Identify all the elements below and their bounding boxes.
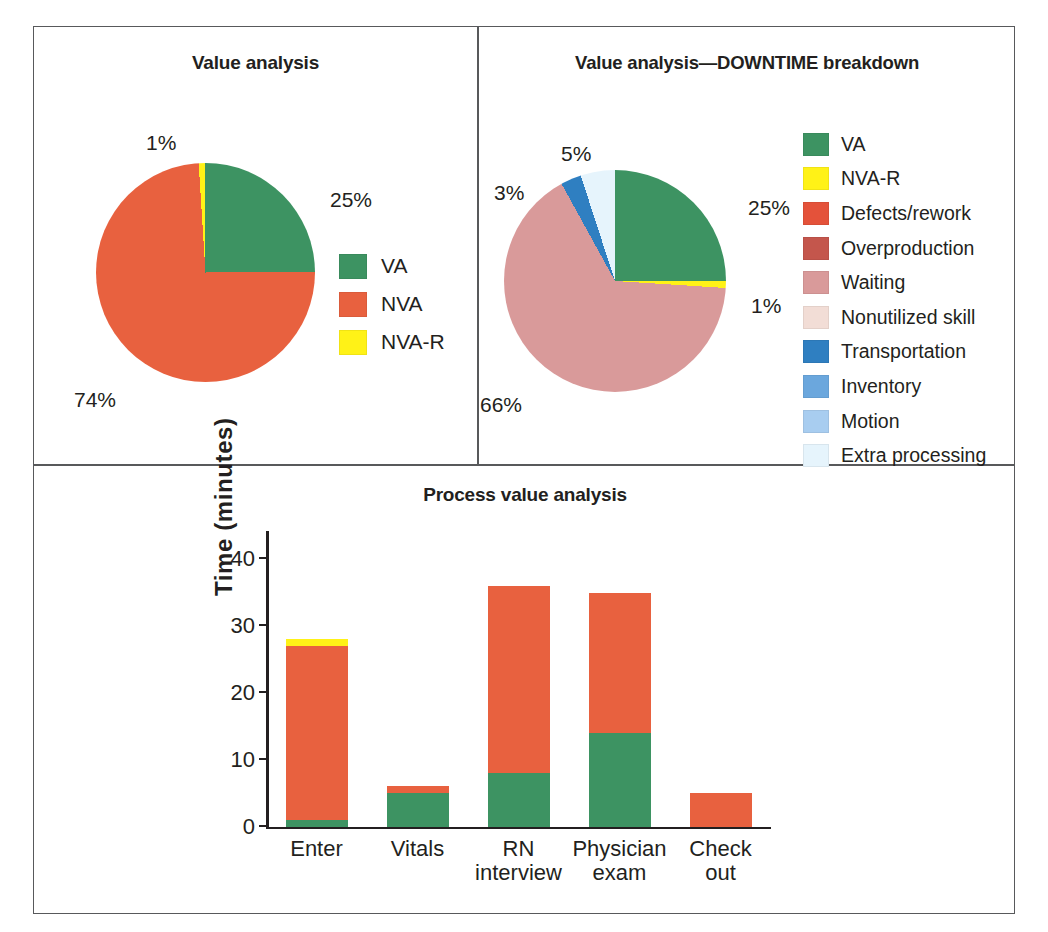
legend-swatch-transportation	[803, 340, 829, 363]
legend-label-motion: Motion	[841, 410, 900, 433]
legend-swatch-nva-r	[339, 330, 367, 355]
y-tick-mark	[259, 691, 266, 693]
y-tick-mark	[259, 624, 266, 626]
legend-label-transportation: Transportation	[841, 340, 966, 363]
bar-segment-nva	[286, 646, 348, 820]
legend-swatch-overproduction	[803, 237, 829, 260]
bar-segment-nva	[589, 593, 651, 733]
legend-swatch-inventory	[803, 375, 829, 398]
pie-slice-label-va: 25%	[748, 196, 790, 220]
bar-chart-plot-area: 010203040EnterVitalsRNinterviewPhysician…	[266, 539, 771, 829]
pie-slice-label-extra-processing: 5%	[561, 142, 591, 166]
bar-segment-nva-r	[286, 639, 348, 646]
panel-downtime-breakdown: Value analysis—DOWNTIME breakdown 3% 5% …	[478, 27, 1016, 464]
legend-swatch-waiting	[803, 271, 829, 294]
bar-segment-va	[286, 820, 348, 827]
y-tick-mark	[259, 758, 266, 760]
legend-label-va: VA	[841, 133, 866, 156]
legend-label-nva: NVA	[381, 292, 423, 316]
pie-slice-label-nva-r: 1%	[146, 131, 176, 155]
process-value-analysis-title: Process value analysis	[34, 484, 1016, 506]
legend-swatch-motion	[803, 410, 829, 433]
legend-label-inventory: Inventory	[841, 375, 921, 398]
bar-segment-nva	[387, 786, 449, 793]
value-analysis-legend: VA NVA NVA-R	[339, 247, 445, 361]
bar-segment-nva	[488, 586, 550, 773]
legend-swatch-nva	[339, 292, 367, 317]
downtime-legend: VANVA-RDefects/reworkOverproductionWaiti…	[803, 127, 986, 473]
legend-swatch-extra-processing	[803, 444, 829, 467]
legend-swatch-va	[339, 254, 367, 279]
y-tick-label: 0	[243, 814, 255, 840]
legend-item-va: VA	[803, 127, 986, 162]
y-tick-label: 10	[231, 747, 255, 773]
legend-label-nonutilized-skill: Nonutilized skill	[841, 306, 975, 329]
y-axis-line	[266, 531, 269, 829]
legend-item-defects-rework: Defects/rework	[803, 196, 986, 231]
legend-item-nva: NVA	[339, 285, 445, 323]
x-tick-label-rn-interview: RNinterview	[468, 837, 569, 885]
bar-stack-vitals[interactable]	[387, 786, 449, 826]
x-tick-label-physician-exam: Physicianexam	[569, 837, 670, 885]
x-axis-line	[266, 827, 771, 830]
legend-label-waiting: Waiting	[841, 271, 905, 294]
legend-label-extra-processing: Extra processing	[841, 444, 986, 467]
panel-value-analysis: Value analysis 1% 25% 74% VA NVA NVA-R	[34, 27, 477, 464]
bar-stack-enter[interactable]	[286, 639, 348, 826]
legend-item-waiting: Waiting	[803, 265, 986, 300]
pie-slice-label-transportation: 3%	[494, 181, 524, 205]
bar-segment-nva	[690, 793, 752, 826]
x-tick-label-check-out: Checkout	[670, 837, 771, 885]
pie-slice-label-nva: 74%	[74, 388, 116, 412]
x-tick-label-enter: Enter	[266, 837, 367, 861]
bar-stack-check-out[interactable]	[690, 793, 752, 826]
legend-item-transportation: Transportation	[803, 335, 986, 370]
legend-item-nva-r: NVA-R	[339, 323, 445, 361]
bar-segment-va	[387, 793, 449, 826]
x-tick-label-vitals: Vitals	[367, 837, 468, 861]
panel-process-value-analysis: Process value analysis Time (minutes) 01…	[34, 465, 1016, 914]
legend-swatch-nva-r	[803, 167, 829, 190]
downtime-title: Value analysis—DOWNTIME breakdown	[478, 52, 1016, 74]
value-analysis-pie	[96, 163, 315, 382]
legend-item-va: VA	[339, 247, 445, 285]
legend-item-nonutilized-skill: Nonutilized skill	[803, 300, 986, 335]
legend-label-overproduction: Overproduction	[841, 237, 974, 260]
legend-label-defects-rework: Defects/rework	[841, 202, 971, 225]
legend-item-inventory: Inventory	[803, 369, 986, 404]
pie-slice-label-waiting: 66%	[480, 393, 522, 417]
legend-label-nva-r: NVA-R	[841, 167, 900, 190]
legend-label-nva-r: NVA-R	[381, 330, 445, 354]
figure-container: Value analysis 1% 25% 74% VA NVA NVA-R V…	[33, 26, 1015, 914]
y-tick-label: 30	[231, 613, 255, 639]
legend-label-va: VA	[381, 254, 407, 278]
legend-swatch-va	[803, 133, 829, 156]
y-tick-label: 40	[231, 546, 255, 572]
pie-slice-label-nva-r: 1%	[751, 294, 781, 318]
y-tick-mark	[259, 557, 266, 559]
legend-item-motion: Motion	[803, 404, 986, 439]
legend-swatch-nonutilized-skill	[803, 306, 829, 329]
downtime-pie	[504, 170, 726, 392]
y-tick-mark	[259, 825, 266, 827]
bar-stack-physician-exam[interactable]	[589, 593, 651, 827]
bar-stack-rn-interview[interactable]	[488, 586, 550, 827]
y-tick-label: 20	[231, 680, 255, 706]
legend-swatch-defects-rework	[803, 202, 829, 225]
legend-item-overproduction: Overproduction	[803, 231, 986, 266]
pie-slice-label-va: 25%	[330, 188, 372, 212]
value-analysis-title: Value analysis	[34, 52, 477, 74]
legend-item-nva-r: NVA-R	[803, 162, 986, 197]
bar-segment-va	[589, 733, 651, 827]
bar-segment-va	[488, 773, 550, 826]
